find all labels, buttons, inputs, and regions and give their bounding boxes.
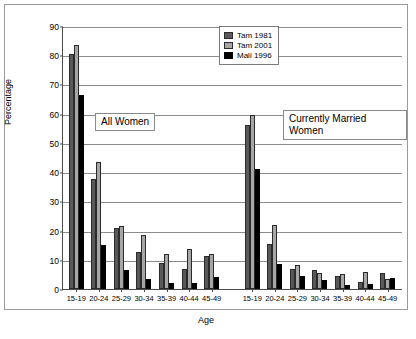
x-axis-tick-mark — [212, 289, 213, 292]
bar-group: 45-49 — [376, 27, 399, 289]
bar-group: 45-49 — [200, 27, 223, 289]
x-axis-tick-mark — [365, 289, 366, 292]
bar — [169, 283, 174, 289]
y-axis-tick-mark — [60, 85, 63, 86]
bar — [390, 278, 395, 289]
x-axis-tick-label: 45-49 — [202, 294, 221, 303]
legend-label: Tam 1981 — [237, 31, 272, 40]
bar-group: 15-19 — [241, 27, 264, 289]
y-axis-tick-mark — [60, 114, 63, 115]
legend-item: Mali 1996 — [224, 51, 272, 60]
y-axis-tick-label: 90 — [19, 23, 59, 32]
bar — [214, 277, 219, 289]
bar — [277, 264, 282, 289]
legend-swatch-icon — [224, 52, 233, 59]
x-axis-tick-label: 30-34 — [310, 294, 329, 303]
y-axis-tick-mark — [60, 173, 63, 174]
bar — [368, 284, 373, 289]
chart-figure: Percentage 0102030405060708090 15-1920-2… — [0, 0, 416, 339]
bar-group: 25-29 — [110, 27, 133, 289]
x-axis-tick-label: 20-24 — [265, 294, 284, 303]
x-axis-tick-label: 35-39 — [157, 294, 176, 303]
y-axis-tick-mark — [60, 260, 63, 261]
y-axis-tick-label: 70 — [19, 81, 59, 90]
x-axis-tick-label: 25-29 — [288, 294, 307, 303]
bar-group: 25-29 — [286, 27, 309, 289]
y-axis-tick-label: 0 — [19, 286, 59, 295]
x-axis-title: Age — [5, 315, 407, 325]
y-axis-tick-mark — [60, 231, 63, 232]
x-axis-tick-mark — [121, 289, 122, 292]
annotation-currently-married-women: Currently Married Women — [283, 110, 407, 140]
x-axis-tick-label: 20-24 — [89, 294, 108, 303]
bar — [124, 270, 129, 289]
bar-group: 20-24 — [88, 27, 111, 289]
x-axis-tick-mark — [189, 289, 190, 292]
y-axis-tick-mark — [60, 143, 63, 144]
bar — [79, 95, 84, 289]
bar — [300, 276, 305, 289]
bar — [255, 169, 260, 289]
bar-group: 40-44 — [178, 27, 201, 289]
legend-item: Tam 2001 — [224, 41, 272, 50]
bar-group: 35-39 — [155, 27, 178, 289]
x-axis-tick-label: 30-34 — [134, 294, 153, 303]
bar — [101, 245, 106, 289]
chart-frame: Percentage 0102030405060708090 15-1920-2… — [4, 4, 408, 310]
legend-label: Mali 1996 — [237, 51, 272, 60]
bar — [322, 280, 327, 289]
x-axis-tick-mark — [99, 289, 100, 292]
chart-legend: Tam 1981Tam 2001Mali 1996 — [219, 26, 279, 65]
panel-all-women: 15-1920-2425-2930-3435-3940-4445-49 — [65, 27, 223, 289]
bar-group: 40-44 — [354, 27, 377, 289]
x-axis-tick-label: 15-19 — [67, 294, 86, 303]
y-axis-tick-label: 80 — [19, 52, 59, 61]
panel-currently-married-women: 15-1920-2425-2930-3435-3940-4445-49 — [241, 27, 399, 289]
y-axis-tick-mark — [60, 27, 63, 28]
x-axis-tick-label: 15-19 — [243, 294, 262, 303]
y-axis-tick-label: 30 — [19, 198, 59, 207]
bar-group: 35-39 — [331, 27, 354, 289]
x-axis-tick-mark — [144, 289, 145, 292]
x-axis-tick-mark — [343, 289, 344, 292]
y-axis-tick-mark — [60, 56, 63, 57]
bar — [345, 285, 350, 289]
y-axis-tick-label: 20 — [19, 227, 59, 236]
bar — [146, 279, 151, 289]
x-axis-tick-mark — [388, 289, 389, 292]
x-axis-tick-mark — [167, 289, 168, 292]
x-axis-tick-mark — [297, 289, 298, 292]
bar-group: 15-19 — [65, 27, 88, 289]
y-axis-tick-label: 50 — [19, 140, 59, 149]
x-axis-tick-label: 45-49 — [378, 294, 397, 303]
bar-group: 20-24 — [264, 27, 287, 289]
x-axis-tick-mark — [76, 289, 77, 292]
y-axis-tick-label: 40 — [19, 169, 59, 178]
legend-swatch-icon — [224, 32, 233, 39]
bar-group: 30-34 — [133, 27, 156, 289]
x-axis-tick-mark — [275, 289, 276, 292]
plot-area: 0102030405060708090 15-1920-2425-2930-34… — [62, 27, 402, 290]
y-axis-tick-mark — [60, 290, 63, 291]
x-axis-tick-mark — [320, 289, 321, 292]
x-axis-tick-label: 35-39 — [333, 294, 352, 303]
y-axis-title: Percentage — [3, 79, 13, 125]
x-axis-tick-label: 40-44 — [356, 294, 375, 303]
x-axis-tick-label: 25-29 — [112, 294, 131, 303]
legend-swatch-icon — [224, 42, 233, 49]
x-axis-tick-mark — [252, 289, 253, 292]
legend-label: Tam 2001 — [237, 41, 272, 50]
x-axis-tick-label: 40-44 — [180, 294, 199, 303]
y-axis-tick-label: 60 — [19, 110, 59, 119]
y-axis-tick-label: 10 — [19, 257, 59, 266]
legend-item: Tam 1981 — [224, 31, 272, 40]
y-axis-tick-mark — [60, 202, 63, 203]
bar — [192, 283, 197, 289]
annotation-all-women: All Women — [95, 113, 155, 131]
bar-group: 30-34 — [309, 27, 332, 289]
